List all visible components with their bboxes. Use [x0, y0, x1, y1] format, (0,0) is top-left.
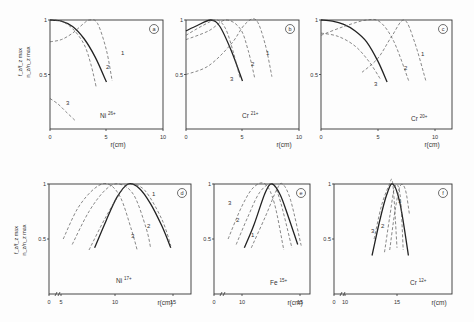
svg-text:f_z/f_z max: f_z/f_z max [13, 226, 19, 254]
svg-text:n_z/n_z max: n_z/n_z max [21, 224, 27, 255]
ion-label: Ni 26+ [100, 111, 116, 119]
ion-label: Cr 20+ [411, 114, 428, 122]
curve-label: 3 [66, 100, 70, 106]
x-tick-label: 5 [376, 134, 379, 140]
curve-label: 2 [147, 223, 151, 229]
figure: 10.50510r(cm)aNi 26+12310.50510r(cm)bCr … [0, 0, 474, 322]
panel-badge: e [299, 190, 302, 196]
x-tick-label: 10 [342, 299, 348, 305]
y-axis-label: f_z/f_z maxn_z/n_z max [13, 224, 27, 255]
curve-label: 3 [371, 228, 375, 234]
curve-label: 1 [121, 50, 125, 56]
curve-1 [251, 183, 301, 247]
x-tick-label: 0 [47, 299, 50, 305]
curve-label: 1 [421, 51, 425, 57]
curve-label: 1 [152, 191, 156, 197]
panel-d: 10.5051015r(cm)dNi 17+123 [38, 181, 191, 307]
x-tick-label: 0 [212, 299, 215, 305]
y-tick-label: 0.5 [323, 236, 331, 242]
curve-label: 3 [131, 233, 135, 239]
panel-e: 10.501015r(cm)eFe 15+123 [203, 181, 310, 307]
plot-frame [321, 20, 452, 129]
x-tick-label: 5 [59, 299, 62, 305]
y-tick-label: 1 [180, 17, 183, 23]
curve-label: 2 [106, 64, 110, 70]
curve-2 [236, 184, 292, 248]
panel-badge: d [180, 190, 183, 196]
x-tick-label: 0 [48, 134, 51, 140]
ion-label: Fe 15+ [270, 278, 287, 286]
panel-c: 10.50510r(cm)cCr 20+123 [310, 17, 452, 149]
x-axis-label: r(cm) [431, 299, 446, 307]
curve-label: 1 [266, 50, 270, 56]
curve-label: 2 [251, 61, 255, 67]
svg-text:n_z/n_z max: n_z/n_z max [25, 46, 31, 77]
curve-3 [374, 179, 397, 248]
y-tick-label: 1 [208, 181, 211, 187]
x-tick-label: 10 [160, 134, 166, 140]
curve-2 [321, 19, 409, 81]
curve-label: 3 [228, 200, 232, 206]
x-tick-label: 10 [112, 299, 118, 305]
curve-3 [50, 99, 75, 121]
curve-1 [89, 184, 171, 250]
x-tick-label: 10 [296, 134, 302, 140]
x-axis-label: r(cm) [424, 141, 439, 149]
panel-b: 10.50510r(cm)bCr 21+123 [175, 17, 302, 149]
panel-badge: a [152, 26, 156, 32]
y-tick-label: 0.5 [175, 72, 183, 78]
panel-badge: c [442, 26, 445, 32]
y-tick-label: 0.5 [39, 72, 47, 78]
x-axis-label: r(cm) [276, 141, 291, 149]
x-axis-label: r(cm) [157, 299, 172, 307]
curve-1 [50, 20, 112, 81]
curve-3 [186, 20, 240, 79]
panel-a: 10.50510r(cm)aNi 26+123 [39, 17, 166, 149]
x-tick-label: 10 [432, 134, 438, 140]
y-tick-label: 1 [315, 17, 318, 23]
curve-2 [50, 20, 96, 88]
x-tick-label: 0 [319, 134, 322, 140]
curve-label: 2 [381, 223, 385, 229]
ion-label: Ni 17+ [116, 276, 132, 284]
y-tick-label: 0.5 [203, 236, 211, 242]
x-tick-label: 5 [240, 134, 243, 140]
y-tick-label: 1 [44, 17, 47, 23]
y-tick-label: 1 [43, 181, 46, 187]
y-tick-label: 0.5 [38, 236, 46, 242]
x-tick-label: 0 [332, 299, 335, 305]
x-tick-label: 5 [104, 134, 107, 140]
curve-3 [321, 33, 380, 79]
x-tick-label: 0 [184, 134, 187, 140]
panel-f: 10.501015r(cm)fCr 12+123 [323, 179, 452, 307]
x-tick-label: 10 [239, 299, 245, 305]
curve-label: 1 [251, 232, 255, 238]
x-tick-label: 15 [394, 299, 400, 305]
curve-solid [50, 20, 107, 82]
x-axis-label: r(cm) [287, 299, 302, 307]
curve-label: 1 [398, 198, 402, 204]
curve-label: 2 [404, 65, 408, 71]
ion-label: Cr 12+ [410, 278, 427, 286]
curve-2 [72, 184, 150, 248]
y-axis-label: f_z/f_z maxn_z/n_z max [17, 46, 31, 77]
panel-badge: b [288, 26, 291, 32]
ion-label: Cr 21+ [242, 111, 259, 119]
plot-frame [334, 184, 452, 294]
curve-solid [186, 20, 243, 81]
y-tick-label: 0.5 [310, 72, 318, 78]
y-tick-label: 1 [328, 181, 331, 187]
chart-canvas: 10.50510r(cm)aNi 26+12310.50510r(cm)bCr … [0, 0, 474, 322]
curve-solid [321, 20, 387, 82]
curve-label: 3 [230, 76, 234, 82]
svg-text:f_z/f_z max: f_z/f_z max [17, 48, 23, 76]
panel-badge: f [442, 190, 444, 196]
curve-label: 3 [374, 81, 378, 87]
x-axis-label: r(cm) [110, 141, 125, 149]
